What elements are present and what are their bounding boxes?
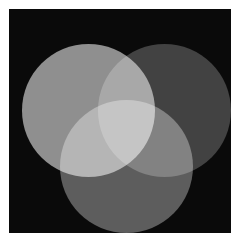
venn-circle-bottom	[60, 100, 193, 233]
diagram-canvas	[9, 9, 231, 233]
figure-root	[0, 0, 239, 245]
